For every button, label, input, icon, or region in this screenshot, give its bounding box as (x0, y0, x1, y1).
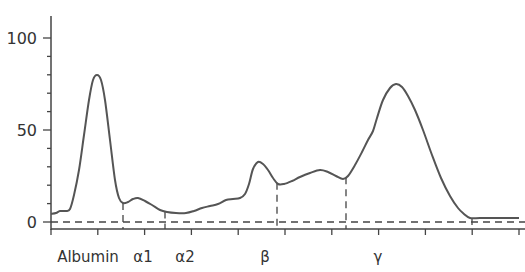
y-tick-label: 0 (27, 213, 37, 232)
fraction-label: α1 (133, 248, 152, 266)
fraction-label: Albumin (57, 248, 119, 266)
y-ticks (43, 38, 51, 222)
fraction-dividers (123, 177, 472, 229)
y-tick-label: 50 (17, 121, 37, 140)
y-tick-label: 100 (6, 29, 37, 48)
y-tick-labels: 050100 (6, 29, 37, 232)
fraction-label: γ (374, 248, 383, 266)
fraction-label: α2 (175, 248, 194, 266)
fraction-labels: Albuminα1α2βγ (57, 248, 382, 266)
x-ticks (51, 229, 519, 235)
electrophoresis-chart: 050100 Albuminα1α2βγ (0, 0, 525, 272)
densitometry-curve (51, 75, 519, 218)
fraction-label: β (260, 248, 270, 266)
